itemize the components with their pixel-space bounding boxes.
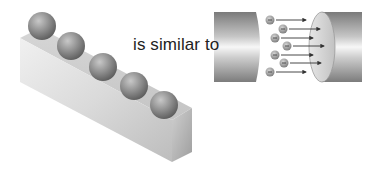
- electron: [266, 16, 307, 25]
- ball-icon: [120, 72, 148, 100]
- comparison-caption: is similar to: [133, 35, 219, 55]
- right-wire-face: [309, 12, 335, 82]
- ball-icon: [89, 53, 117, 81]
- ball-icon: [57, 32, 85, 60]
- electron: [266, 68, 307, 77]
- ball-icon: [150, 91, 178, 119]
- left-wire: [214, 12, 260, 82]
- diagram-canvas: [0, 0, 374, 171]
- ball-icon: [28, 12, 56, 40]
- electron: [271, 51, 314, 60]
- electron: [271, 34, 314, 43]
